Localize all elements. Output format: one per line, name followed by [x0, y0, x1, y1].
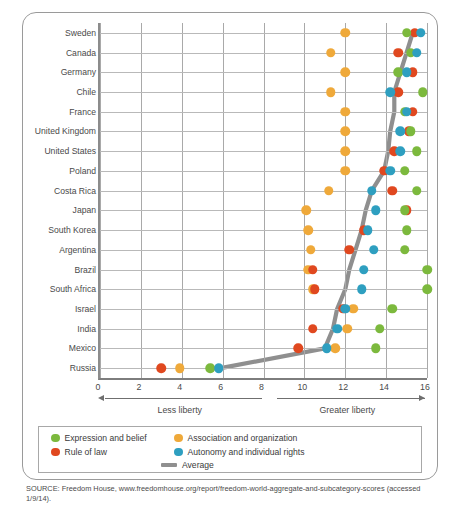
legend-swatch-rule-of-law [51, 448, 60, 457]
data-point [293, 344, 303, 354]
grid-line-horizontal [100, 92, 427, 93]
y-axis-label: Sweden [65, 28, 96, 38]
grid-line-horizontal [100, 191, 427, 192]
average-polyline [221, 33, 413, 368]
y-axis-label: Chile [76, 87, 96, 97]
data-point [394, 87, 404, 97]
data-point [357, 285, 367, 295]
data-point [422, 265, 432, 275]
plot-area [98, 23, 427, 380]
legend-label-average: Average [182, 460, 214, 470]
data-point [394, 48, 404, 58]
y-axis-label: France [69, 107, 96, 117]
data-point [385, 166, 395, 176]
chart-figure: SwedenCanadaGermanyChileFranceUnited Kin… [0, 0, 460, 521]
data-point [341, 127, 351, 137]
legend-item-rule-of-law: Rule of law [51, 447, 107, 457]
axis-direction-label: Less liberty [158, 405, 203, 415]
data-point [306, 245, 316, 255]
data-point [343, 324, 353, 334]
grid-line-horizontal [100, 368, 427, 369]
grid-line-horizontal [100, 53, 427, 54]
data-point [412, 146, 422, 156]
x-tick-label: 8 [259, 382, 264, 392]
data-point [422, 285, 432, 295]
grid-line-horizontal [100, 309, 427, 310]
grid-line-vertical [100, 23, 101, 378]
x-tick-label: 12 [338, 382, 348, 392]
y-axis-label: United States [44, 146, 96, 156]
x-tick-label: 16 [420, 382, 430, 392]
data-point [349, 304, 359, 314]
data-point [418, 87, 428, 97]
legend-swatch-expression [51, 434, 60, 443]
legend-item-autonomy: Autonomy and individual rights [174, 447, 305, 457]
data-point [371, 206, 381, 216]
source-note: SOURCE: Freedom House, www.freedomhouse.… [26, 484, 436, 504]
data-point [341, 304, 351, 314]
data-point [310, 285, 320, 295]
legend-item-association: Association and organization [174, 433, 297, 443]
y-axis-label: Japan [73, 205, 96, 215]
y-axis-category-labels: SwedenCanadaGermanyChileFranceUnited Kin… [30, 22, 96, 378]
legend: Expression and belief Association and or… [38, 426, 422, 473]
data-point [345, 245, 355, 255]
data-point [388, 186, 398, 196]
grid-line-vertical [264, 23, 265, 378]
data-point [326, 48, 336, 58]
data-point [330, 344, 340, 354]
data-point [369, 245, 379, 255]
data-point [341, 28, 351, 38]
data-point [388, 304, 398, 314]
data-point [375, 324, 385, 334]
x-tick-label: 14 [379, 382, 389, 392]
data-point [367, 186, 377, 196]
y-axis-label: Mexico [69, 343, 96, 353]
data-point [406, 127, 416, 137]
source-line-1: SOURCE: Freedom House, www.freedomhouse.… [26, 484, 385, 493]
y-axis-label: United Kingdom [35, 126, 96, 136]
grid-line-horizontal [100, 72, 427, 73]
y-axis-label: Brazil [75, 265, 97, 275]
grid-line-horizontal [100, 230, 427, 231]
data-point [396, 127, 406, 137]
grid-line-vertical [141, 23, 142, 378]
y-axis-label: Germany [61, 67, 96, 77]
data-point [308, 324, 318, 334]
data-point [396, 146, 406, 156]
data-point [371, 344, 381, 354]
data-point [308, 265, 318, 275]
grid-line-horizontal [100, 33, 427, 34]
x-tick-label: 4 [177, 382, 182, 392]
grid-line-horizontal [100, 270, 427, 271]
data-point [341, 68, 351, 78]
data-point [363, 225, 373, 235]
legend-label-association: Association and organization [188, 433, 298, 443]
data-point [341, 107, 351, 117]
data-point [175, 363, 185, 373]
y-axis-label: Costa Rica [54, 186, 96, 196]
grid-line-vertical [427, 23, 428, 378]
legend-swatch-autonomy [174, 448, 183, 457]
legend-item-average: Average [161, 460, 214, 470]
data-point [402, 28, 412, 38]
axis-arrow-head [98, 395, 104, 401]
x-tick-label: 2 [136, 382, 141, 392]
data-point [322, 344, 332, 354]
data-point [412, 48, 422, 58]
y-axis-label: India [77, 324, 96, 334]
y-axis-label: Russia [70, 363, 96, 373]
data-point [304, 225, 314, 235]
y-axis-label: South Korea [48, 225, 96, 235]
x-tick-label: 6 [218, 382, 223, 392]
y-axis-label: Canada [66, 48, 96, 58]
axis-direction-label: Greater liberty [319, 405, 375, 415]
axis-arrow-bar [277, 398, 425, 399]
y-axis-label: South Africa [50, 284, 96, 294]
x-tick-label: 0 [96, 382, 101, 392]
data-point [332, 324, 342, 334]
grid-line-vertical [304, 23, 305, 378]
data-point [341, 166, 351, 176]
legend-swatch-association [174, 434, 183, 443]
y-axis-label: Argentina [59, 245, 96, 255]
